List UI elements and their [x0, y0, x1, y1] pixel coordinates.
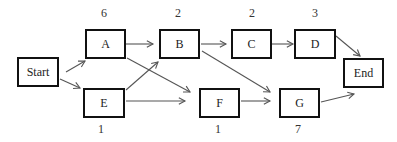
node-label: G: [295, 96, 304, 111]
edge-g-to-end: [321, 92, 354, 102]
edge-a-to-f: [127, 58, 190, 92]
node-f: F: [199, 88, 240, 118]
edge-a-to-b: [126, 41, 153, 48]
node-label: D: [311, 37, 320, 52]
node-label: C: [247, 37, 255, 52]
node-label: B: [175, 37, 183, 52]
node-a: A: [85, 29, 126, 59]
node-e: E: [83, 88, 125, 118]
edge-f-to-g: [241, 98, 270, 105]
duration-label-top-d: 3: [305, 6, 325, 21]
edges-layer: [0, 0, 397, 142]
duration-label-bottom-e: 1: [91, 122, 111, 137]
node-label: E: [100, 96, 107, 111]
node-label: Start: [27, 65, 50, 80]
node-d: D: [294, 29, 336, 59]
duration-label-bottom-g: 7: [288, 122, 308, 137]
node-label: F: [216, 96, 223, 111]
edge-e-to-f: [126, 98, 185, 105]
network-diagram: StartAEBCDFGEnd 6223117: [0, 0, 397, 142]
node-label: End: [354, 66, 373, 81]
edge-start-to-e: [60, 79, 80, 89]
node-start: Start: [17, 57, 59, 87]
node-b: B: [159, 29, 200, 59]
duration-label-bottom-f: 1: [208, 122, 228, 137]
node-end: End: [343, 58, 384, 88]
edge-d-to-end: [336, 36, 360, 56]
node-c: C: [231, 29, 272, 59]
node-label: A: [101, 37, 110, 52]
duration-label-top-b: 2: [168, 6, 188, 21]
duration-label-top-a: 6: [94, 6, 114, 21]
edge-c-to-d: [272, 41, 293, 48]
duration-label-top-c: 2: [242, 6, 262, 21]
edge-start-to-a: [66, 61, 85, 72]
node-g: G: [279, 88, 320, 118]
edge-b-to-c: [201, 41, 226, 48]
